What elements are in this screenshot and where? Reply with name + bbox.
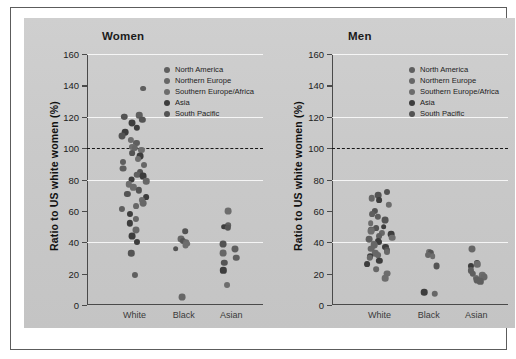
data-point <box>140 200 147 207</box>
legend-swatch-icon <box>164 89 170 95</box>
legend-item: Northern Europe <box>409 75 499 86</box>
legend-item: Asia <box>409 97 499 108</box>
y-tick-label: 100 <box>63 143 79 154</box>
y-tick-label: 140 <box>308 80 324 91</box>
legend-label: Asia <box>175 97 190 108</box>
data-point <box>130 150 136 156</box>
legend-label: Northern Europe <box>175 75 231 86</box>
y-tick-label: 20 <box>68 268 79 279</box>
data-point <box>120 165 127 172</box>
data-point <box>430 254 436 260</box>
legend-swatch-icon <box>409 89 415 95</box>
data-point <box>374 266 380 272</box>
data-point <box>376 258 382 264</box>
y-tick-label: 80 <box>313 174 324 185</box>
data-point <box>136 187 142 193</box>
reference-line-100 <box>332 148 508 149</box>
data-point <box>143 178 150 185</box>
legend-swatch-icon <box>164 111 170 117</box>
gridline <box>87 180 263 181</box>
y-tick <box>82 117 87 118</box>
panel-women-legend: North AmericaNorthern EuropeSouthern Eur… <box>164 64 254 119</box>
legend-item: Southern Europe/Africa <box>164 86 254 97</box>
legend-label: North America <box>175 64 223 75</box>
data-point <box>477 278 483 284</box>
data-point <box>141 86 147 92</box>
data-point <box>133 203 139 209</box>
data-point <box>376 197 382 203</box>
panel-men: Men Ratio to US white women (%) 02040608… <box>270 18 515 328</box>
legend-item: South Pacific <box>164 108 254 119</box>
y-tick <box>82 211 87 212</box>
y-tick <box>327 211 332 212</box>
y-tick <box>82 54 87 55</box>
y-tick <box>82 180 87 181</box>
data-point <box>233 255 239 261</box>
data-point <box>384 189 390 195</box>
legend-label: South Pacific <box>420 108 464 119</box>
legend-item: Asia <box>164 97 254 108</box>
legend-swatch-icon <box>409 67 415 73</box>
data-point <box>382 217 389 224</box>
y-tick <box>327 85 332 86</box>
gridline <box>332 54 508 55</box>
x-tick-label-asian: Asian <box>220 310 243 320</box>
panel-men-legend: North AmericaNorthern EuropeSouthern Eur… <box>409 64 499 119</box>
data-point <box>225 207 232 214</box>
legend-label: North America <box>420 64 468 75</box>
data-point <box>375 214 381 220</box>
data-point <box>182 242 189 249</box>
data-point <box>220 267 226 273</box>
data-point <box>124 190 130 196</box>
data-point <box>179 294 186 301</box>
data-point <box>134 239 140 245</box>
panel-women-x-axis <box>87 304 263 305</box>
y-tick-label: 100 <box>308 143 324 154</box>
y-tick-label: 0 <box>319 300 324 311</box>
data-point <box>431 291 437 297</box>
legend-swatch-icon <box>409 78 415 84</box>
y-tick-label: 160 <box>63 49 79 60</box>
legend-item: South Pacific <box>409 108 499 119</box>
y-tick-label: 0 <box>74 300 79 311</box>
legend-swatch-icon <box>164 67 170 73</box>
data-point <box>119 206 125 212</box>
panel-women-title: Women <box>102 30 144 42</box>
data-point <box>468 245 475 252</box>
x-tick-label-black: Black <box>173 310 195 320</box>
data-point <box>375 252 381 258</box>
data-point <box>173 246 179 252</box>
y-tick <box>327 54 332 55</box>
y-tick <box>327 180 332 181</box>
gridline <box>87 54 263 55</box>
legend-label: Asia <box>420 97 435 108</box>
data-point <box>367 228 374 235</box>
y-tick <box>327 117 332 118</box>
panel-men-y-axis-label: Ratio to US white women (%) <box>292 76 304 276</box>
data-point <box>141 162 147 168</box>
data-point <box>433 262 440 269</box>
legend-swatch-icon <box>164 78 170 84</box>
x-tick-label-white: White <box>123 310 146 320</box>
data-point <box>139 117 145 123</box>
legend-item: Northern Europe <box>164 75 254 86</box>
legend-swatch-icon <box>409 111 415 117</box>
y-tick-label: 120 <box>308 111 324 122</box>
data-point <box>127 211 133 217</box>
data-point <box>368 221 374 227</box>
data-point <box>421 289 428 296</box>
legend-label: South Pacific <box>175 108 219 119</box>
data-point <box>221 259 227 265</box>
figure-canvas: Women Ratio to US white women (%) 020406… <box>0 0 516 359</box>
y-tick <box>327 305 332 306</box>
data-point <box>474 261 480 267</box>
data-point <box>132 272 138 278</box>
figure-frame: Women Ratio to US white women (%) 020406… <box>10 7 507 350</box>
data-point <box>232 245 239 252</box>
data-point <box>386 201 392 207</box>
data-point <box>366 255 372 261</box>
y-tick <box>82 242 87 243</box>
data-point <box>128 233 135 240</box>
data-point <box>220 240 227 247</box>
x-tick-label-asian: Asian <box>465 310 488 320</box>
